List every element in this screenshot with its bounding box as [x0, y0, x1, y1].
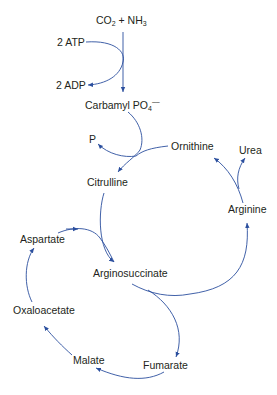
arrow-citrulline-to-arginosuccinate — [100, 193, 114, 262]
arrow-arginosuccinate-to-arginine — [132, 223, 247, 296]
arrow-atp-to-adp — [86, 42, 123, 85]
arrow-arginine-to-urea — [238, 158, 245, 189]
label-oxaloacetate: Oxaloacetate — [13, 304, 75, 316]
arrow-oxaloacetate-to-aspartate — [26, 248, 34, 302]
arrow-carbamyl-to-citrulline — [118, 112, 142, 172]
label-atp: 2 ATP — [57, 36, 85, 48]
arrow-ornithine-to-p — [98, 144, 168, 157]
label-adp: 2 ADP — [56, 79, 86, 91]
label-citrulline: Citrulline — [87, 176, 128, 188]
label-phosphate: P — [89, 133, 96, 145]
label-malate: Malate — [73, 354, 105, 366]
arrow-arginine-to-ornithine — [214, 158, 243, 203]
arrow-malate-to-oxaloacetate — [44, 326, 72, 355]
arrow-aspartate-to-arginosuccinate — [58, 229, 114, 262]
label-ornithine: Ornithine — [171, 140, 214, 152]
label-fumarate: Fumarate — [143, 359, 188, 371]
label-carbamyl-phosphate: Carbamyl PO4–– — [85, 96, 160, 115]
label-urea: Urea — [239, 144, 262, 156]
label-co2-nh3: CO2 + NH3 — [96, 14, 147, 30]
arrow-arginosuccinate-to-fumarate — [148, 290, 179, 357]
label-aspartate: Aspartate — [20, 233, 65, 245]
label-arginine: Arginine — [228, 203, 267, 215]
cycle-arrows — [0, 0, 277, 395]
label-arginosuccinate: Arginosuccinate — [93, 267, 168, 279]
